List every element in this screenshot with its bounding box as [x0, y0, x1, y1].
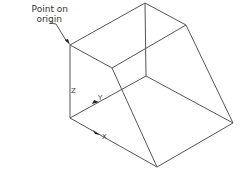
edge — [70, 45, 112, 68]
edge — [70, 76, 146, 118]
annotation-line2: origin — [4, 14, 62, 24]
edge — [145, 3, 186, 25]
edge — [186, 25, 233, 123]
edge — [70, 3, 145, 45]
x-axis-label: X — [102, 133, 107, 141]
edge — [112, 25, 186, 68]
edge — [145, 3, 146, 76]
y-axis-label: Y — [98, 94, 102, 102]
edge — [70, 118, 157, 167]
z-axis-label: Z — [71, 87, 76, 95]
wedge-wireframe — [0, 0, 241, 172]
x-axis-arrow — [93, 130, 100, 135]
edge — [157, 123, 233, 167]
leader-arrow — [65, 39, 70, 45]
annotation-line1: Point on — [4, 4, 68, 14]
edge — [146, 76, 233, 123]
leader-line — [56, 24, 67, 42]
